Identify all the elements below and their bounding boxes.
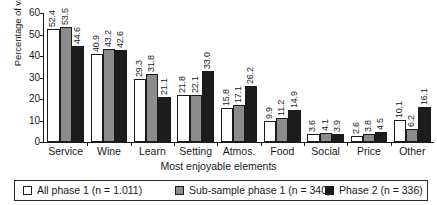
bar-value-label: 3.8 (364, 120, 373, 132)
bar-group: 3.64.13.9 (307, 13, 344, 142)
legend-swatch-icon (23, 186, 32, 195)
bar-value-label: 15.8 (222, 89, 231, 106)
bar-group: 2.63.84.5 (351, 13, 388, 142)
bar (418, 107, 430, 142)
bar (245, 86, 257, 142)
x-tick-label-social: Social (304, 146, 347, 157)
bar-value-label: 4.5 (376, 118, 385, 130)
bar-group: 21.822.133.0 (177, 13, 214, 142)
bar-value-label: 21.1 (160, 78, 169, 95)
y-tick-label-10: 10 (18, 116, 40, 126)
legend-label: Phase 2 (n = 336) (339, 184, 423, 196)
bar (288, 110, 300, 142)
bar (233, 105, 245, 142)
bar (103, 49, 115, 142)
bar (134, 79, 146, 142)
legend-item[interactable]: Sub-sample phase 1 (n = 340) (175, 184, 331, 196)
bar (146, 74, 158, 142)
x-tick-label-learn: Learn (131, 146, 174, 157)
bar (202, 71, 214, 142)
bar (307, 134, 319, 142)
bar-value-label: 43.2 (104, 30, 113, 47)
x-tick-label-price: Price (347, 146, 390, 157)
y-tick-label-50: 50 (18, 30, 40, 40)
bar-value-label: 14.9 (290, 91, 299, 108)
legend: All phase 1 (n = 1.011)Sub-sample phase … (14, 180, 428, 201)
bar-value-label: 42.6 (116, 32, 125, 49)
bar (320, 133, 332, 142)
bar (332, 134, 344, 142)
bar-value-label: 10.1 (395, 102, 404, 119)
y-tick-label-20: 20 (18, 94, 40, 104)
x-tick-label-food: Food (261, 146, 304, 157)
bar-value-label: 9.9 (265, 107, 274, 119)
x-tick-label-other: Other (391, 146, 434, 157)
legend-swatch-icon (325, 186, 334, 195)
plot-area: 52.453.544.640.943.242.629.331.821.121.8… (44, 13, 434, 142)
bar (406, 129, 418, 142)
bar (221, 108, 233, 142)
bar-group: 15.817.126.2 (221, 13, 258, 142)
bar-value-label: 3.9 (333, 120, 342, 132)
x-tick-label-wine: Wine (87, 146, 130, 157)
bar-chart: Percentage of valid cases 0102030405060 … (0, 0, 437, 205)
bar-group: 40.943.242.6 (91, 13, 128, 142)
bar (47, 29, 59, 142)
x-tick-label-service: Service (44, 146, 87, 157)
x-tick-label-setting: Setting (174, 146, 217, 157)
bar (264, 121, 276, 142)
x-axis-label: Most enjoyable elements (0, 160, 437, 172)
bar (375, 132, 387, 142)
bar-value-label: 6.2 (407, 115, 416, 127)
bar-group: 52.453.544.6 (47, 13, 84, 142)
bar (72, 46, 84, 142)
x-axis-line (43, 142, 434, 143)
y-tick-label-60: 60 (18, 8, 40, 18)
legend-label: All phase 1 (n = 1.011) (37, 184, 142, 196)
legend-swatch-icon (175, 186, 184, 195)
bar-value-label: 53.5 (61, 8, 70, 25)
bar-value-label: 17.1 (234, 87, 243, 104)
bar-value-label: 52.4 (48, 11, 57, 28)
bar (363, 134, 375, 142)
bar-value-label: 31.8 (147, 55, 156, 72)
bar-value-label: 40.9 (92, 35, 101, 52)
bar-value-label: 33.0 (203, 52, 212, 69)
bar (91, 54, 103, 142)
bar-value-label: 29.3 (135, 60, 144, 77)
bar-value-label: 3.6 (308, 120, 317, 132)
bar (351, 136, 363, 142)
y-tick-label-0: 0 (18, 137, 40, 147)
bar (276, 118, 288, 142)
bar-value-label: 2.6 (352, 123, 361, 135)
legend-label: Sub-sample phase 1 (n = 340) (189, 184, 331, 196)
bar (60, 27, 72, 142)
bar-group: 9.911.214.9 (264, 13, 301, 142)
y-tick-label-30: 30 (18, 73, 40, 83)
legend-item[interactable]: Phase 2 (n = 336) (325, 184, 423, 196)
bar-value-label: 21.8 (178, 76, 187, 93)
bar-group: 10.16.216.1 (394, 13, 431, 142)
bar (177, 95, 189, 142)
x-tick-label-atmos: Atmos. (217, 146, 260, 157)
bar-value-label: 26.2 (246, 67, 255, 84)
bar (190, 95, 202, 143)
bar (158, 97, 170, 142)
bar-value-label: 4.1 (321, 119, 330, 131)
legend-item[interactable]: All phase 1 (n = 1.011) (23, 184, 142, 196)
bar-value-label: 44.6 (73, 27, 82, 44)
bar-value-label: 16.1 (420, 89, 429, 106)
bar (115, 50, 127, 142)
bar-value-label: 22.1 (191, 76, 200, 93)
y-tick-label-40: 40 (18, 51, 40, 61)
bar-value-label: 11.2 (277, 100, 286, 116)
bar (394, 120, 406, 142)
bar-group: 29.331.821.1 (134, 13, 171, 142)
